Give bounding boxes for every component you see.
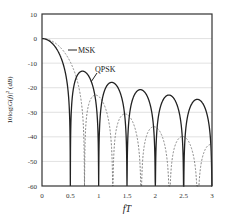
psd-chart: 100-10-20-30-40-50-60 00.511.522.53 10lo… <box>0 0 225 224</box>
msk-annotation: MSK <box>78 46 96 55</box>
x-tick-label: 2 <box>154 192 158 200</box>
x-tick-label: 1 <box>97 192 101 200</box>
y-tick-label: -10 <box>28 60 38 68</box>
x-tick-label: 1.5 <box>123 192 132 200</box>
x-tick-label: 2.5 <box>179 192 188 200</box>
y-tick-label: 10 <box>30 11 38 19</box>
y-tick-label: -50 <box>28 158 38 166</box>
y-tick-labels: 100-10-20-30-40-50-60 <box>28 11 38 191</box>
y-axis-label: 10log|G(f)|2 (dB) <box>5 76 14 124</box>
y-tick-label: -60 <box>28 183 38 191</box>
qpsk-annotation: QPSK <box>95 65 116 74</box>
y-tick-label: -40 <box>28 133 38 141</box>
y-tick-label: -30 <box>28 109 38 117</box>
qpsk-leader-line <box>91 73 97 82</box>
y-tick-label: 0 <box>34 35 38 43</box>
x-axis-label: fT <box>123 203 133 214</box>
x-tick-labels: 00.511.522.53 <box>40 192 214 200</box>
x-tick-label: 0 <box>40 192 44 200</box>
x-tick-label: 3 <box>210 192 214 200</box>
y-tick-label: -20 <box>28 84 38 92</box>
x-tick-label: 0.5 <box>66 192 75 200</box>
